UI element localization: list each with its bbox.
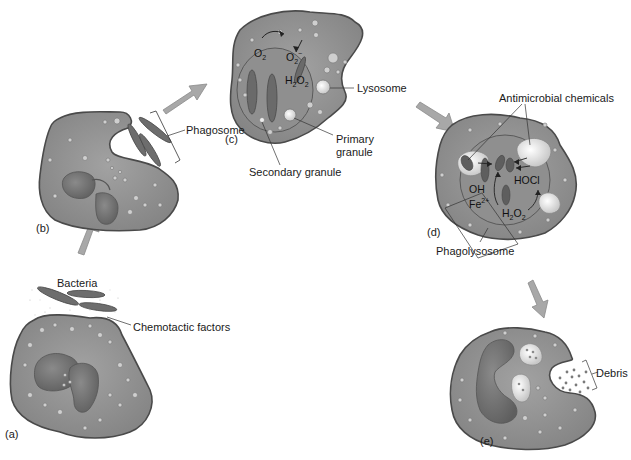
panel-label-d: (d) bbox=[427, 226, 440, 238]
chem-fe2: Fe2+ bbox=[469, 195, 489, 210]
chem-h2o2-c: H2O2 bbox=[285, 75, 309, 90]
bacterium bbox=[79, 301, 118, 313]
panel-a-cell bbox=[10, 315, 152, 438]
chem-hocl: HOCl bbox=[514, 175, 540, 186]
debris-particles bbox=[559, 369, 590, 394]
bacterium bbox=[67, 290, 105, 299]
label-debris: Debris bbox=[596, 367, 628, 379]
label-lysosome: Lysosome bbox=[357, 82, 407, 94]
bacterium bbox=[247, 70, 257, 114]
label-antimicrobial-chemicals: Antimicrobial chemicals bbox=[499, 92, 614, 104]
chem-oh: OH bbox=[469, 184, 485, 195]
phagocytosis-diagram bbox=[0, 0, 631, 460]
arrow-b-to-c bbox=[163, 84, 207, 114]
label-primary-granule-line2: granule bbox=[336, 146, 373, 158]
panel-label-e: (e) bbox=[480, 435, 493, 447]
bacterium bbox=[267, 74, 277, 122]
leader-phagosome bbox=[167, 130, 185, 136]
panel-e-cell bbox=[450, 328, 595, 450]
secondary-granule bbox=[260, 118, 265, 123]
label-phagolysosome: Phagolysosome bbox=[436, 245, 514, 257]
arrow-d-to-e bbox=[528, 280, 548, 318]
label-secondary-granule: Secondary granule bbox=[249, 166, 341, 178]
label-bacteria: Bacteria bbox=[57, 277, 97, 289]
label-primary-granule-line1: Primary bbox=[336, 133, 374, 145]
label-chemotactic-factors: Chemotactic factors bbox=[133, 321, 230, 333]
panel-label-a: (a) bbox=[5, 428, 18, 440]
lysosome bbox=[316, 80, 330, 94]
panel-label-b: (b) bbox=[36, 222, 49, 234]
chem-o2: O2 bbox=[254, 48, 266, 63]
chem-superoxide: O2− bbox=[286, 48, 302, 67]
debris-bracket bbox=[582, 360, 597, 390]
chem-h2o2-d: H2O2 bbox=[502, 208, 526, 223]
label-phagosome: Phagosome bbox=[186, 124, 245, 136]
primary-granule bbox=[284, 109, 296, 121]
vacuole bbox=[519, 344, 542, 365]
